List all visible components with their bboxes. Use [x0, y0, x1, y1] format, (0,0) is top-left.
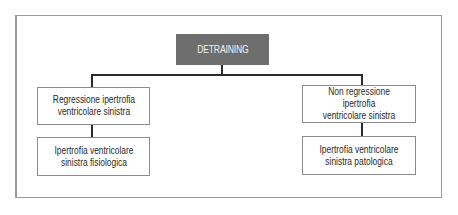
node-ipertrofia-patologica: Ipertrofia ventricolare sinistra patolog…	[302, 136, 416, 175]
connector-right-down	[361, 74, 363, 85]
node-label: Ipertrofia ventricolare sinistra patolog…	[320, 144, 399, 168]
connector-horizontal	[91, 74, 363, 76]
node-label: Regressione ipertrofia ventricolare sini…	[52, 94, 134, 118]
connector-left-level2	[91, 124, 93, 137]
node-non-regressione-ipertrofia: Non regressione ipertrofia ventricolare …	[302, 85, 416, 123]
connector-left-down	[91, 74, 93, 87]
node-ipertrofia-fisiologica: Ipertrofia ventricolare sinistra fisiolo…	[37, 137, 150, 176]
node-label: Ipertrofia ventricolare sinistra fisiolo…	[54, 145, 133, 169]
root-node-label: DETRAINING	[197, 44, 248, 55]
root-node-detraining: DETRAINING	[176, 34, 269, 65]
node-regressione-ipertrofia: Regressione ipertrofia ventricolare sini…	[37, 87, 150, 125]
node-label: Non regressione ipertrofia ventricolare …	[312, 86, 406, 122]
connector-right-level2	[361, 122, 363, 136]
